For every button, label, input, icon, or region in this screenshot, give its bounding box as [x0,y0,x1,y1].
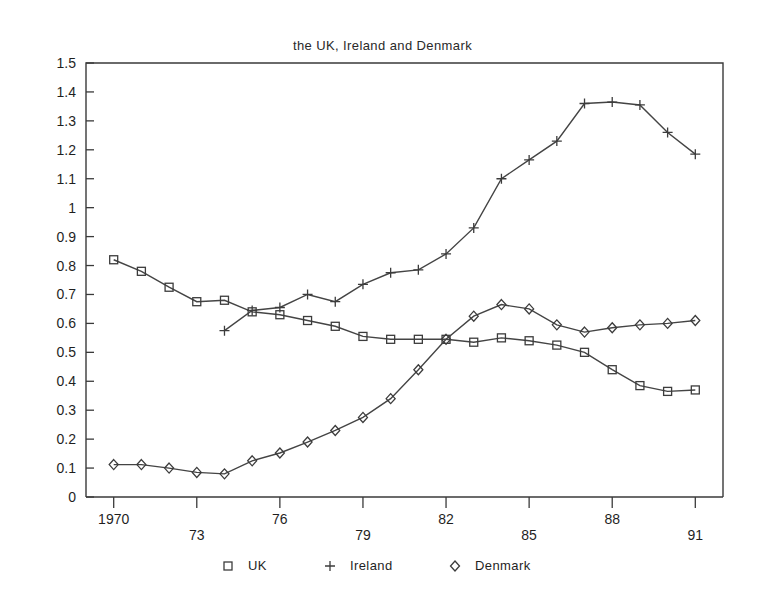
data-point-marker [386,268,396,278]
x-tick-label: 73 [189,527,205,543]
series-uk [110,256,700,396]
x-tick-label: 91 [688,527,704,543]
data-point-marker [607,97,617,107]
y-tick-label: 0.7 [57,286,77,302]
chart-canvas: the UK, Ireland and Denmark 00.10.20.30.… [0,0,765,608]
line-chart-plot: 00.10.20.30.40.50.60.70.80.911.11.21.31.… [0,0,765,608]
legend-item-uk[interactable]: UK [224,558,267,573]
legend-item-ireland[interactable]: Ireland [325,558,393,573]
x-tick-label: 82 [438,511,454,527]
data-point-marker [330,297,340,307]
legend-square-icon [224,562,232,570]
x-tick-label: 79 [355,527,371,543]
data-point-marker [110,256,118,264]
x-tick-label: 85 [521,527,537,543]
axis-frame [86,63,723,497]
data-point-marker [303,289,313,299]
y-tick-label: 1.2 [57,142,77,158]
data-point-marker [413,265,423,275]
y-tick-label: 0.5 [57,344,77,360]
y-tick-label: 1.5 [57,55,77,71]
legend-label: Ireland [350,558,393,573]
legend-item-denmark[interactable]: Denmark [451,558,531,573]
data-point-marker [219,326,229,336]
series-markers [110,256,700,396]
data-point-marker [496,174,506,184]
y-tick-label: 0.3 [57,402,77,418]
x-tick-label: 76 [272,511,288,527]
series-markers [109,300,700,479]
y-tick-label: 0.4 [57,373,77,389]
legend-diamond-icon [451,561,460,571]
y-tick-label: 0.8 [57,258,77,274]
legend-label: Denmark [475,558,531,573]
series-polyline [224,102,695,331]
y-tick-label: 0.6 [57,315,77,331]
x-tick-label: 1970 [98,511,129,527]
y-tick-label: 0.1 [57,460,77,476]
y-axis-ticks: 00.10.20.30.40.50.60.70.80.911.11.21.31.… [57,55,94,505]
series-polyline [114,305,696,474]
x-axis-ticks: 197073767982858891 [98,497,703,543]
y-tick-label: 0.9 [57,229,77,245]
data-point-marker [524,155,534,165]
series-denmark [109,300,700,479]
data-point-marker [358,279,368,289]
series-markers [219,97,700,336]
y-tick-label: 1 [68,200,76,216]
y-tick-label: 1.1 [57,171,77,187]
data-point-marker [552,136,562,146]
data-point-marker [580,99,590,109]
legend-plus-icon [325,561,335,571]
y-tick-label: 1.3 [57,113,77,129]
y-tick-label: 0.2 [57,431,77,447]
legend-label: UK [248,558,267,573]
x-tick-label: 88 [604,511,620,527]
series-ireland [219,97,700,336]
chart-legend: UKIrelandDenmark [224,558,531,573]
y-tick-label: 1.4 [57,84,77,100]
data-series-layer [109,97,700,479]
y-tick-label: 0 [68,489,76,505]
